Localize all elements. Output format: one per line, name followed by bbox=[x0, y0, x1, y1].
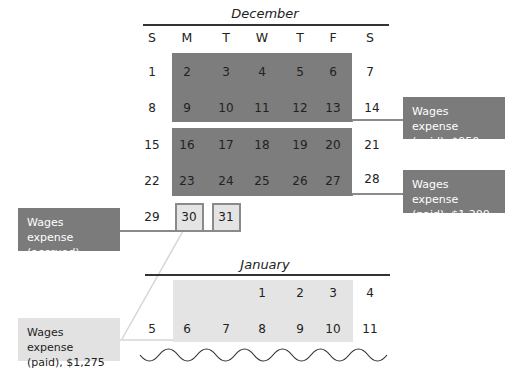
dec-day: 28 bbox=[360, 172, 384, 186]
december-rule bbox=[143, 24, 389, 26]
callout-line-1: Wages expense bbox=[412, 104, 496, 134]
dec-day: 31 bbox=[214, 210, 238, 224]
dec-day: 1 bbox=[140, 65, 164, 79]
dec-day: 16 bbox=[175, 138, 199, 152]
dow-mon: M bbox=[175, 30, 199, 45]
callout-line-1: Wages expense bbox=[27, 325, 111, 355]
dec-day: 27 bbox=[321, 174, 345, 188]
dec-day: 24 bbox=[214, 174, 238, 188]
callout-wages-paid-1275: Wages expense (paid), $1,275 bbox=[18, 318, 120, 361]
dec-day: 4 bbox=[250, 65, 274, 79]
dec-day: 8 bbox=[140, 101, 164, 115]
january-rule bbox=[145, 274, 390, 276]
dec-day: 25 bbox=[250, 174, 274, 188]
dec-day: 20 bbox=[321, 138, 345, 152]
callout-wages-paid-950: Wages expense (paid), $950 bbox=[403, 97, 505, 139]
dec-day: 7 bbox=[358, 65, 382, 79]
dec-day: 5 bbox=[288, 65, 312, 79]
dec-day: 15 bbox=[140, 138, 164, 152]
dec-day: 12 bbox=[288, 101, 312, 115]
dec-day: 21 bbox=[360, 138, 384, 152]
callout-line-2: (paid), $950 bbox=[412, 134, 496, 149]
dec-day: 6 bbox=[321, 65, 345, 79]
jan-day: 3 bbox=[321, 286, 345, 300]
dow-sat: S bbox=[358, 30, 382, 45]
callout-line-2: (paid), $1,275 bbox=[27, 355, 111, 370]
dec-day: 10 bbox=[214, 101, 238, 115]
jan-day: 11 bbox=[358, 322, 382, 336]
jan-day: 4 bbox=[358, 286, 382, 300]
dec-day: 29 bbox=[140, 210, 164, 224]
dec-day: 18 bbox=[250, 138, 274, 152]
dow-fri: F bbox=[321, 30, 345, 45]
jan-day: 8 bbox=[250, 322, 274, 336]
dec-day: 30 bbox=[177, 210, 201, 224]
callout-line-2: (paid), $1,200 bbox=[412, 207, 496, 222]
dec-day: 26 bbox=[288, 174, 312, 188]
jan-day: 10 bbox=[321, 322, 345, 336]
dow-tue: T bbox=[214, 30, 238, 45]
jan-day: 7 bbox=[214, 322, 238, 336]
callout-wages-paid-1200: Wages expense (paid), $1,200 bbox=[403, 170, 505, 213]
jan-day: 2 bbox=[288, 286, 312, 300]
callout-line-1: Wages expense bbox=[412, 177, 496, 207]
dec-day: 9 bbox=[175, 101, 199, 115]
callout-line-1: Wages expense bbox=[27, 215, 111, 245]
dow-wed: W bbox=[250, 30, 274, 45]
jan-day: 5 bbox=[140, 322, 164, 336]
dec-day: 23 bbox=[175, 174, 199, 188]
january-title: January bbox=[205, 257, 325, 272]
dec-day: 2 bbox=[175, 65, 199, 79]
callout-wages-accrued-250: Wages expense (accrued), $250 bbox=[18, 208, 120, 251]
wavy-line bbox=[140, 349, 387, 361]
dec-day: 19 bbox=[288, 138, 312, 152]
dec-day: 14 bbox=[360, 101, 384, 115]
jan-day: 9 bbox=[288, 322, 312, 336]
dec-day: 13 bbox=[321, 101, 345, 115]
dec-day: 11 bbox=[250, 101, 274, 115]
dec-day: 3 bbox=[214, 65, 238, 79]
dow-sun: S bbox=[140, 30, 164, 45]
dec-day: 17 bbox=[214, 138, 238, 152]
jan-day: 6 bbox=[175, 322, 199, 336]
december-title: December bbox=[205, 6, 325, 21]
jan-day: 1 bbox=[250, 286, 274, 300]
dec-day: 22 bbox=[140, 174, 164, 188]
callout-line-2: (accrued), $250 bbox=[27, 245, 111, 275]
dow-thu: T bbox=[288, 30, 312, 45]
